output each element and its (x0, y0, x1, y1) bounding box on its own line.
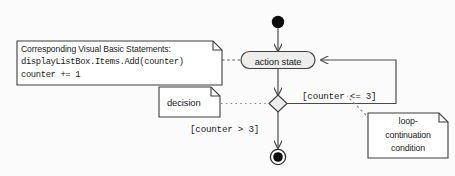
final-state-dot (273, 152, 283, 162)
vb-note-line-heading: Corresponding Visual Basic Statements: (21, 44, 171, 54)
vb-note-line-code-add: displayListBox.Items.Add(counter) (21, 57, 184, 67)
activity-diagram-canvas: action state Corresponding Visual Basic … (0, 0, 455, 176)
vb-note-line-code-increment: counter += 1 (21, 70, 80, 80)
action-state-label: action state (241, 56, 315, 67)
guard-label-loop-continuation: [counter <= 3] (302, 91, 376, 102)
guard-label-exit: [counter > 3] (190, 124, 259, 135)
loop-note-line-3: condition (371, 143, 445, 153)
loop-note-line-2: continuation (371, 130, 445, 140)
decision-diamond-shape (269, 95, 287, 112)
loop-note-line-1: loop- (371, 116, 445, 126)
initial-state-dot (272, 16, 284, 28)
decision-note-label: decision (167, 97, 201, 108)
